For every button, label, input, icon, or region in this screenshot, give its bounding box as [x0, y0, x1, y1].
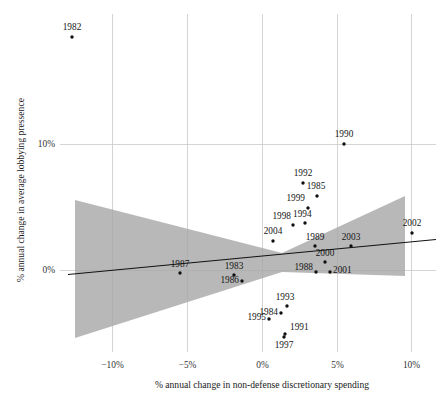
data-point [342, 142, 345, 145]
scatter-plot-canvas: 1982 1990 1992 1985 1999 1998 1994 2004 … [0, 0, 436, 398]
data-point [279, 311, 282, 314]
x-axis-title: % annual change in non-defense discretio… [155, 379, 369, 390]
data-point [70, 35, 73, 38]
point-label: 1986 [220, 275, 239, 285]
point-label: 2000 [316, 248, 335, 258]
x-tick-label-0: 0% [256, 360, 269, 370]
point-label: 1991 [290, 322, 309, 332]
x-tick-label-minus5: −5% [179, 360, 197, 370]
x-axis-ticks: −10% −5% 0% 5% 10% [101, 360, 420, 370]
point-label: 1993 [276, 292, 295, 302]
y-axis-ticks: 10% 0% [38, 139, 55, 275]
point-label: 2003 [342, 232, 361, 242]
data-point [283, 332, 286, 335]
data-point [240, 279, 243, 282]
point-label: 1990 [335, 129, 354, 139]
point-label: 1995 [247, 312, 266, 322]
y-axis-title: % annual change in average lobbying pres… [15, 98, 26, 282]
data-point [410, 231, 413, 234]
point-label: 1988 [294, 262, 313, 272]
point-label: 1982 [63, 22, 82, 32]
data-point [349, 244, 352, 247]
point-label: 1987 [171, 259, 190, 269]
x-tick-label-10: 10% [403, 360, 420, 370]
data-point [301, 181, 304, 184]
data-point [303, 221, 306, 224]
point-label: 1989 [306, 232, 325, 242]
point-label: 2004 [264, 226, 283, 236]
y-tick-label-0: 0% [43, 265, 56, 275]
point-label: 1998 [272, 211, 291, 221]
y-tick-label-10: 10% [38, 139, 55, 149]
point-label: 1997 [275, 340, 294, 350]
point-label: 1999 [286, 193, 305, 203]
point-label: 2002 [403, 218, 422, 228]
data-point [178, 271, 181, 274]
point-label: 1983 [225, 261, 244, 271]
data-point [282, 335, 285, 338]
x-tick-label-5: 5% [331, 360, 344, 370]
data-point [328, 270, 331, 273]
data-point [291, 223, 294, 226]
point-label: 1992 [294, 168, 313, 178]
data-point [323, 260, 326, 263]
point-label: 1985 [307, 181, 326, 191]
x-tick-label-minus10: −10% [101, 360, 124, 370]
point-label: 1994 [293, 209, 312, 219]
data-point [271, 239, 274, 242]
point-label: 2001 [333, 265, 352, 275]
data-point [285, 304, 288, 307]
scatter-chart-figure: 1982 1990 1992 1985 1999 1998 1994 2004 … [0, 0, 436, 398]
data-point [315, 194, 318, 197]
data-point [314, 270, 317, 273]
data-point [267, 317, 270, 320]
